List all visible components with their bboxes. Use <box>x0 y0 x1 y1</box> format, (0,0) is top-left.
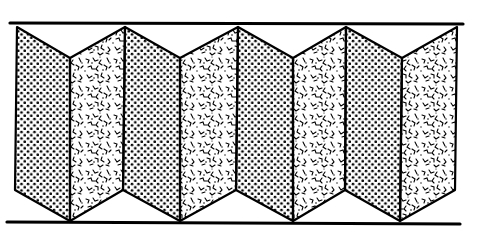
panel-6-speckled <box>293 27 346 221</box>
panel-2-speckled <box>70 27 125 221</box>
panel-7-dotted <box>345 27 402 221</box>
bottom-rail <box>7 222 460 224</box>
panel-4-speckled <box>180 27 238 221</box>
panel-5-dotted <box>236 27 293 221</box>
panel-3-dotted <box>123 27 180 221</box>
panel-1-dotted <box>15 27 70 221</box>
top-rail <box>10 23 463 24</box>
panels <box>15 27 457 221</box>
panel-8-speckled <box>400 27 457 221</box>
folding-screen-diagram <box>0 0 488 245</box>
